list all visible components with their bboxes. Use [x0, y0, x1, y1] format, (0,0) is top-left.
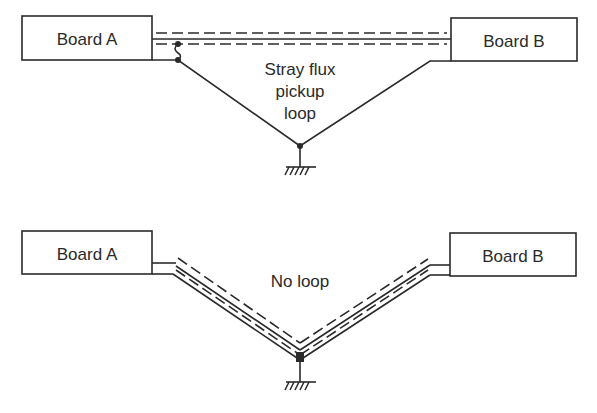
top-annotation-line2: pickup [275, 82, 324, 101]
bottom-ground-symbol-icon [285, 360, 316, 390]
top-shield-junction-dot [175, 41, 181, 47]
top-annotation-line3: loop [284, 104, 316, 123]
top-board-b-label: Board B [483, 32, 544, 51]
top-annotation-line1: Stray flux [265, 60, 336, 79]
grounding-diagram: Board A Board B Stray flux pickup loop B… [0, 0, 597, 413]
top-ground-symbol-icon [285, 146, 316, 175]
bottom-board-b-label: Board B [482, 247, 543, 266]
top-board-a-label: Board A [57, 30, 118, 49]
top-shielded-cable [152, 33, 451, 44]
bottom-annotation: No loop [271, 272, 330, 291]
bottom-board-a-label: Board A [57, 245, 118, 264]
